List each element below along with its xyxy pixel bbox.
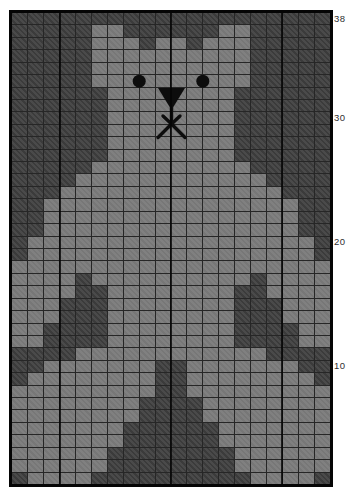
bear-stitch-cell (124, 299, 139, 310)
background-stitch-cell (299, 112, 314, 123)
bear-stitch-cell (187, 112, 202, 123)
bear-stitch-cell (140, 187, 155, 198)
bear-stitch-cell (156, 336, 171, 347)
bear-stitch-cell (108, 174, 123, 185)
bear-stitch-cell (92, 423, 107, 434)
bear-stitch-cell (203, 50, 218, 61)
bear-stitch-cell (283, 224, 298, 235)
bear-stitch-cell (251, 224, 266, 235)
bear-stitch-cell (299, 386, 314, 397)
background-stitch-cell (283, 348, 298, 359)
bear-stitch-cell (187, 361, 202, 372)
bear-stitch-cell (124, 261, 139, 272)
bear-stitch-cell (92, 460, 107, 471)
background-stitch-cell (283, 125, 298, 136)
bear-stitch-cell (235, 261, 250, 272)
bear-stitch-cell (219, 125, 234, 136)
bear-stitch-cell (203, 361, 218, 372)
bear-stitch-cell (92, 261, 107, 272)
bear-stitch-cell (108, 311, 123, 322)
bear-stitch-cell (219, 398, 234, 409)
background-stitch-cell (108, 13, 123, 24)
bear-stitch-cell (140, 63, 155, 74)
bear-stitch-cell (76, 199, 91, 210)
bear-stitch-cell (203, 286, 218, 297)
bear-stitch-cell (187, 150, 202, 161)
bear-stitch-cell (219, 224, 234, 235)
background-stitch-cell (12, 150, 27, 161)
bear-stitch-cell (44, 386, 59, 397)
bear-stitch-cell (219, 237, 234, 248)
background-stitch-cell (76, 38, 91, 49)
background-stitch-cell (283, 100, 298, 111)
background-stitch-cell (187, 435, 202, 446)
bear-stitch-cell (76, 174, 91, 185)
chart-frame (9, 10, 333, 487)
background-stitch-cell (267, 112, 282, 123)
bear-stitch-cell (171, 137, 186, 148)
background-stitch-cell (44, 63, 59, 74)
bear-stitch-cell (60, 435, 75, 446)
background-stitch-cell (315, 199, 330, 210)
background-stitch-cell (60, 348, 75, 359)
bear-stitch-cell (251, 435, 266, 446)
bear-stitch-cell (124, 348, 139, 359)
background-stitch-cell (12, 75, 27, 86)
background-stitch-cell (12, 88, 27, 99)
bear-stitch-cell (187, 88, 202, 99)
background-stitch-cell (299, 38, 314, 49)
bear-stitch-cell (203, 311, 218, 322)
bear-stitch-cell (124, 410, 139, 421)
bear-stitch-cell (283, 311, 298, 322)
bear-stitch-cell (283, 237, 298, 248)
background-stitch-cell (28, 112, 43, 123)
background-stitch-cell (60, 50, 75, 61)
background-stitch-cell (156, 410, 171, 421)
bear-stitch-cell (108, 25, 123, 36)
background-stitch-cell (140, 38, 155, 49)
bear-stitch-cell (267, 261, 282, 272)
background-stitch-cell (60, 299, 75, 310)
bear-stitch-cell (108, 361, 123, 372)
bear-stitch-cell (12, 410, 27, 421)
background-stitch-cell (156, 386, 171, 397)
bear-stitch-cell (171, 212, 186, 223)
background-stitch-cell (219, 13, 234, 24)
background-stitch-cell (267, 88, 282, 99)
background-stitch-cell (171, 373, 186, 384)
background-stitch-cell (235, 112, 250, 123)
bear-stitch-cell (299, 435, 314, 446)
background-stitch-cell (251, 162, 266, 173)
background-stitch-cell (76, 50, 91, 61)
bear-stitch-cell (124, 174, 139, 185)
background-stitch-cell (299, 63, 314, 74)
background-stitch-cell (60, 125, 75, 136)
bear-stitch-cell (219, 386, 234, 397)
background-stitch-cell (187, 38, 202, 49)
bear-stitch-cell (203, 137, 218, 148)
bear-stitch-cell (76, 473, 91, 484)
bear-stitch-cell (171, 150, 186, 161)
bear-stitch-cell (140, 112, 155, 123)
bear-stitch-cell (156, 187, 171, 198)
bear-stitch-cell (92, 38, 107, 49)
background-stitch-cell (92, 137, 107, 148)
bear-stitch-cell (203, 224, 218, 235)
background-stitch-cell (187, 13, 202, 24)
background-stitch-cell (315, 75, 330, 86)
background-stitch-cell (299, 137, 314, 148)
bear-stitch-cell (124, 150, 139, 161)
background-stitch-cell (140, 448, 155, 459)
background-stitch-cell (12, 187, 27, 198)
bear-stitch-cell (219, 100, 234, 111)
bear-stitch-cell (76, 398, 91, 409)
background-stitch-cell (171, 435, 186, 446)
bear-stitch-cell (76, 361, 91, 372)
row-number-label: 38 (334, 14, 346, 24)
bear-stitch-cell (315, 410, 330, 421)
bear-stitch-cell (92, 410, 107, 421)
background-stitch-cell (44, 38, 59, 49)
bear-stitch-cell (76, 386, 91, 397)
background-stitch-cell (203, 423, 218, 434)
bear-stitch-cell (219, 410, 234, 421)
